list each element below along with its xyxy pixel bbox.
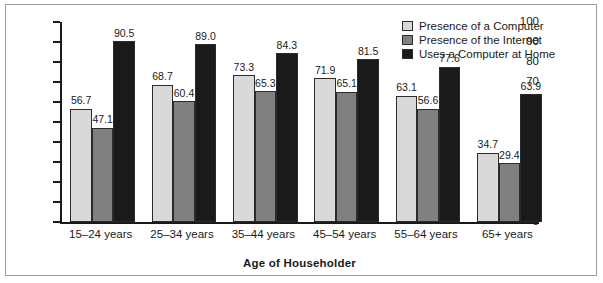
legend-swatch-icon xyxy=(402,35,413,45)
bar-group: 68.760.489.0 xyxy=(152,22,217,222)
bar-value-label: 73.3 xyxy=(227,62,261,73)
bar-value-label: 71.9 xyxy=(308,65,342,76)
bar xyxy=(314,78,336,222)
legend-swatch-icon xyxy=(402,21,413,31)
bar xyxy=(477,153,499,222)
bar-group: 73.365.384.3 xyxy=(233,22,298,222)
bar xyxy=(70,109,92,222)
bar xyxy=(417,109,439,222)
bar-value-label: 63.1 xyxy=(390,82,424,93)
bar xyxy=(113,41,135,222)
legend-label: Presence of a Computer xyxy=(419,20,544,32)
y-axis-tick xyxy=(53,121,60,122)
legend-label: Presence of the Internet xyxy=(419,34,542,46)
bar xyxy=(520,94,542,222)
bar xyxy=(255,91,277,222)
x-axis-category-label: 65+ years xyxy=(457,228,558,240)
legend-item: Presence of a Computer xyxy=(402,19,555,32)
bar-value-label: 56.7 xyxy=(64,95,98,106)
bar xyxy=(499,163,521,222)
bar-value-label: 63.9 xyxy=(514,81,548,92)
bar-value-label: 81.5 xyxy=(351,46,385,57)
bar-group: 56.747.190.5 xyxy=(70,22,135,222)
legend-item: Uses a Computer at Home xyxy=(402,47,555,60)
y-axis-tick xyxy=(53,221,60,222)
y-axis-tick xyxy=(53,161,60,162)
bar-value-label: 84.3 xyxy=(270,40,304,51)
bar xyxy=(195,44,217,222)
bar xyxy=(357,59,379,222)
bar xyxy=(439,67,461,222)
y-axis-tick xyxy=(53,201,60,202)
bar-value-label: 68.7 xyxy=(146,71,180,82)
legend-item: Presence of the Internet xyxy=(402,33,555,46)
bar-value-label: 90.5 xyxy=(107,28,141,39)
chart-legend: Presence of a ComputerPresence of the In… xyxy=(402,19,555,61)
y-axis-tick xyxy=(53,101,60,102)
legend-swatch-icon xyxy=(402,49,413,59)
y-axis-tick xyxy=(53,21,60,22)
bar-group: 71.965.181.5 xyxy=(314,22,379,222)
bar xyxy=(276,53,298,222)
legend-label: Uses a Computer at Home xyxy=(419,48,555,60)
y-axis-tick xyxy=(53,41,60,42)
y-axis-tick xyxy=(53,181,60,182)
x-axis-line xyxy=(60,222,539,224)
bar xyxy=(233,75,255,222)
bar xyxy=(173,101,195,222)
bar xyxy=(396,96,418,222)
chart-figure: 1009080706050403020100 Percent 56.747.19… xyxy=(0,0,603,283)
y-axis-tick xyxy=(53,81,60,82)
bar xyxy=(152,85,174,222)
bar xyxy=(92,128,114,222)
y-axis-tick xyxy=(53,141,60,142)
x-axis-title: Age of Householder xyxy=(60,257,539,269)
bar xyxy=(336,92,358,222)
y-axis-tick xyxy=(53,61,60,62)
bar-value-label: 89.0 xyxy=(189,31,223,42)
